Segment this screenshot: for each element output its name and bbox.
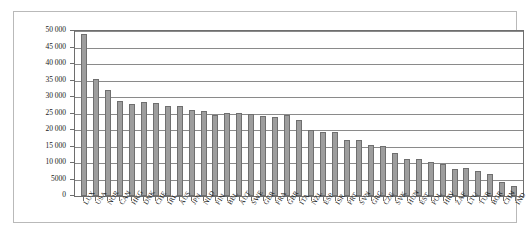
bar	[272, 117, 278, 196]
bar-slot	[174, 31, 186, 196]
x-axis-label-slot: CHE	[149, 201, 161, 234]
bar-slot	[329, 31, 341, 196]
bar-slot	[114, 31, 126, 196]
figure-border: 50 00045 00040 00035 00030 00025 00020 0…	[13, 11, 517, 223]
x-axis-label-slot: NOR	[101, 201, 113, 234]
y-axis-tick-label: 10 000	[14, 158, 66, 166]
y-axis-tick-label: 35 000	[14, 76, 66, 84]
bar	[141, 102, 147, 196]
y-axis-tick-label: 15 000	[14, 142, 66, 150]
x-axis-label-slot: ESP	[317, 201, 329, 234]
bar	[153, 103, 159, 196]
bar-slot	[449, 31, 461, 196]
bar	[320, 132, 326, 196]
bar-slot	[472, 31, 484, 196]
x-axis-label-slot: GRC	[365, 201, 377, 234]
x-axis-labels: LUXUSANORCANHKGDNKCHEIRLAUSJPNNLDFINBELA…	[74, 201, 524, 234]
bar	[224, 113, 230, 196]
y-axis-tick-label: 30 000	[14, 92, 66, 100]
x-axis-label-slot: AUS	[173, 201, 185, 234]
bar	[440, 164, 446, 196]
x-axis-label-slot: USA	[89, 201, 101, 234]
bar-slot	[90, 31, 102, 196]
x-axis-label-slot: IND	[509, 201, 521, 234]
bar-slot	[209, 31, 221, 196]
bar-slot	[162, 31, 174, 196]
bar-slot	[377, 31, 389, 196]
x-axis-label-slot: HRV	[437, 201, 449, 234]
y-axis-tick-label: 20 000	[14, 125, 66, 133]
x-axis-label-slot: LUX	[77, 201, 89, 234]
bar-slot	[221, 31, 233, 196]
bar-slot	[78, 31, 90, 196]
bar	[189, 110, 195, 196]
bar	[248, 114, 254, 196]
bar	[380, 146, 386, 196]
x-axis-label-slot: LTU	[461, 201, 473, 234]
bar-slot	[496, 31, 508, 196]
bar	[201, 111, 207, 196]
bar-slot	[401, 31, 413, 196]
x-axis-label-slot: SVN	[353, 201, 365, 234]
x-axis-label-slot: BEL	[221, 201, 233, 234]
x-axis-label-slot: NZL	[305, 201, 317, 234]
bar-slot	[186, 31, 198, 196]
y-axis-tick-label: 5000	[14, 175, 66, 183]
bar-slot	[508, 31, 520, 196]
bar-slot	[461, 31, 473, 196]
x-axis-label-slot: JPN	[185, 201, 197, 234]
x-axis-label-slot: ZAF	[449, 201, 461, 234]
bar-slot	[102, 31, 114, 196]
bar	[308, 130, 314, 196]
x-axis-label-slot: CHN	[497, 201, 509, 234]
x-axis-label-slot: PRT	[341, 201, 353, 234]
chart-figure: 50 00045 00040 00035 00030 00025 00020 0…	[0, 0, 530, 234]
bar	[177, 106, 183, 196]
bar-slot	[353, 31, 365, 196]
bar-slot	[281, 31, 293, 196]
x-axis-label-slot: NLD	[197, 201, 209, 234]
bar	[404, 159, 410, 196]
x-axis-label-slot: BGR	[485, 201, 497, 234]
bar-slot	[484, 31, 496, 196]
bar	[81, 34, 87, 196]
bar-slot	[138, 31, 150, 196]
x-axis-label-slot: POL	[425, 201, 437, 234]
bar	[332, 132, 338, 196]
y-axis-tick-label: 45 000	[14, 43, 66, 51]
bar	[236, 113, 242, 196]
bar-slot	[341, 31, 353, 196]
bar-slot	[305, 31, 317, 196]
x-axis-label-slot: ITA	[293, 201, 305, 234]
bar-slot	[233, 31, 245, 196]
x-axis-label-slot: GBR	[281, 201, 293, 234]
bar	[212, 115, 218, 196]
bar-slot	[198, 31, 210, 196]
y-axis-tick-label: 25 000	[14, 109, 66, 117]
bar-slot	[317, 31, 329, 196]
x-axis-label-slot: HKG	[125, 201, 137, 234]
bar-slot	[150, 31, 162, 196]
bar-slot	[425, 31, 437, 196]
bar-slot	[437, 31, 449, 196]
x-axis-label-slot: IRL	[161, 201, 173, 234]
x-axis-label-slot: HUN	[401, 201, 413, 234]
bar-slot	[365, 31, 377, 196]
x-axis-label-slot: AUT	[233, 201, 245, 234]
bar-series	[75, 31, 523, 196]
bar	[165, 106, 171, 196]
x-axis-label-slot: FRA	[269, 201, 281, 234]
bar	[105, 90, 111, 196]
bar	[392, 153, 398, 196]
bar	[93, 79, 99, 196]
x-axis-label-slot: SVK	[389, 201, 401, 234]
bar	[428, 162, 434, 196]
x-axis-label-slot: ISR	[329, 201, 341, 234]
y-axis-tick-label: 0	[14, 191, 66, 199]
y-axis-tick-label: 40 000	[14, 59, 66, 67]
bar	[284, 115, 290, 196]
bar-slot	[389, 31, 401, 196]
bar-slot	[413, 31, 425, 196]
bar	[260, 116, 266, 196]
x-axis-label-slot: CZE	[377, 201, 389, 234]
